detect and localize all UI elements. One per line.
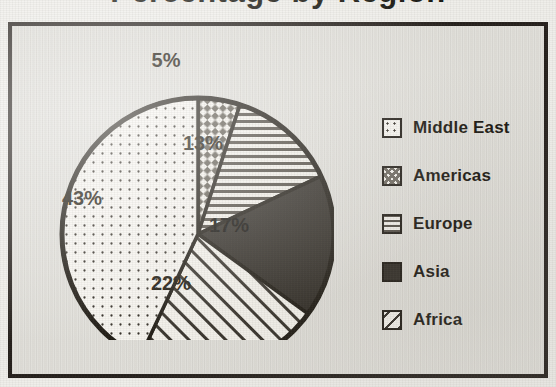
pie-chart-page: Percentage by Region <box>0 0 556 387</box>
legend-label-asia: Asia <box>413 262 450 282</box>
legend-item-middle-east[interactable]: Middle East <box>382 104 542 152</box>
legend-swatch-dots-icon <box>382 118 402 138</box>
pie-chart <box>44 50 334 340</box>
legend-label-americas: Americas <box>413 166 491 186</box>
chart-title-clipped: Percentage by Region <box>0 0 556 20</box>
legend-label-africa: Africa <box>413 310 462 330</box>
legend-item-americas[interactable]: Americas <box>382 152 542 200</box>
legend-item-africa[interactable]: Africa <box>382 296 542 344</box>
legend-label-middle-east: Middle East <box>413 118 510 138</box>
legend-swatch-checkerboard-icon <box>382 166 402 186</box>
legend-swatch-solid-icon <box>382 262 402 282</box>
legend-label-europe: Europe <box>413 214 473 234</box>
legend-item-europe[interactable]: Europe <box>382 200 542 248</box>
chart-frame: 5%13%17%22%43% Middle East Americas Euro… <box>8 22 548 378</box>
legend-item-asia[interactable]: Asia <box>382 248 542 296</box>
page-title: Percentage by Region <box>0 0 556 10</box>
legend-swatch-diagonal-lines-icon <box>382 310 402 330</box>
chart-legend: Middle East Americas Europe Asia Africa <box>382 104 542 344</box>
legend-swatch-horizontal-lines-icon <box>382 214 402 234</box>
